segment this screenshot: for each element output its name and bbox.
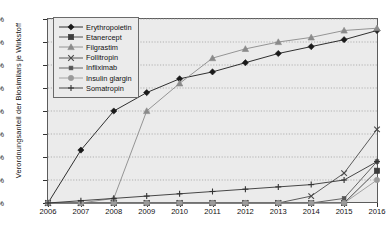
- legend-marker-icon: [58, 73, 84, 83]
- y-tick-label: 50%: [0, 84, 4, 93]
- x-tick-label: 2014: [303, 207, 320, 216]
- legend-marker-icon: [58, 63, 84, 73]
- legend-item-label: Erythropoietin: [86, 23, 132, 32]
- x-tick-label: 2007: [72, 207, 89, 216]
- y-tick-mark: [43, 19, 47, 20]
- y-tick-label: 30%: [0, 130, 4, 139]
- x-tick-label: 2016: [369, 207, 386, 216]
- legend-marker-icon: [58, 53, 84, 63]
- legend-marker-icon: [58, 42, 84, 52]
- y-tick-mark: [43, 180, 47, 181]
- y-axis-label: Verordnungsanteil der Biosimilars je Wir…: [14, 6, 23, 196]
- x-tick-mark: [311, 203, 312, 207]
- legend-item-label: Insulin glargin: [86, 74, 132, 83]
- legend-item-label: Follitropin: [86, 53, 118, 62]
- legend-item-label: Etanercept: [86, 33, 122, 42]
- legend-item: Follitropin: [58, 53, 132, 63]
- x-tick-label: 2013: [270, 207, 287, 216]
- x-tick-label: 2008: [105, 207, 122, 216]
- legend-item: Insulin glargin: [58, 73, 132, 83]
- legend-item-label: Filgrastim: [86, 43, 118, 52]
- legend-item: Erythropoietin: [58, 22, 132, 32]
- legend-marker-icon: [58, 32, 84, 42]
- y-tick-mark: [43, 157, 47, 158]
- legend-item-label: Infliximab: [86, 63, 117, 72]
- y-tick-mark: [43, 203, 47, 204]
- y-tick-label: 70%: [0, 38, 4, 47]
- y-tick-mark: [43, 111, 47, 112]
- y-tick-label: 20%: [0, 153, 4, 162]
- legend: ErythropoietinEtanerceptFilgrastimFollit…: [53, 17, 139, 98]
- x-tick-mark: [147, 203, 148, 207]
- y-tick-mark: [43, 42, 47, 43]
- y-tick-label: 80%: [0, 15, 4, 24]
- x-tick-mark: [278, 203, 279, 207]
- legend-marker-icon: [58, 83, 84, 93]
- x-tick-label: 2009: [138, 207, 155, 216]
- x-tick-mark: [213, 203, 214, 207]
- y-tick-mark: [43, 88, 47, 89]
- x-tick-label: 2011: [204, 207, 220, 216]
- x-tick-label: 2006: [40, 207, 57, 216]
- x-tick-mark: [81, 203, 82, 207]
- y-tick-label: 0%: [0, 199, 4, 208]
- x-tick-mark: [377, 203, 378, 207]
- legend-item: Infliximab: [58, 63, 132, 73]
- x-tick-mark: [180, 203, 181, 207]
- y-tick-label: 10%: [0, 176, 4, 185]
- chart-root: Verordnungsanteil der Biosimilars je Wir…: [0, 0, 386, 236]
- legend-item-label: Somatropin: [86, 84, 124, 93]
- x-tick-label: 2010: [171, 207, 188, 216]
- y-tick-label: 40%: [0, 107, 4, 116]
- x-tick-mark: [245, 203, 246, 207]
- x-tick-mark: [344, 203, 345, 207]
- legend-item: Filgrastim: [58, 42, 132, 52]
- x-tick-label: 2015: [336, 207, 353, 216]
- y-tick-mark: [43, 65, 47, 66]
- y-tick-label: 60%: [0, 61, 4, 70]
- legend-marker-icon: [58, 22, 84, 32]
- x-tick-mark: [48, 203, 49, 207]
- x-tick-label: 2012: [237, 207, 254, 216]
- x-tick-mark: [114, 203, 115, 207]
- legend-item: Etanercept: [58, 32, 132, 42]
- legend-item: Somatropin: [58, 83, 132, 93]
- y-tick-mark: [43, 134, 47, 135]
